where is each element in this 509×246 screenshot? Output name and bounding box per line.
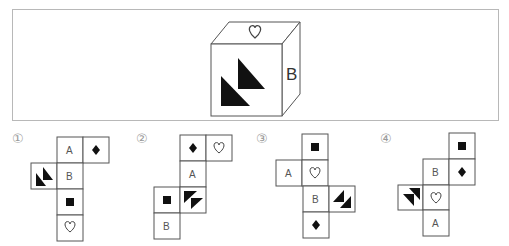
net4-label-a: A [432,218,439,229]
square-icon [311,143,319,151]
square-icon [66,198,74,206]
option-number-2: ② [136,131,148,146]
net3-label-a: A [285,168,292,179]
net1-label-b: B [66,171,73,182]
option-number-1: ① [12,131,24,146]
cube-label-b: B [286,65,297,84]
option-number-4: ④ [380,131,392,146]
net2-label-b: B [163,221,170,232]
net3-label-b: B [312,194,319,205]
puzzle-canvas: B A B A B A [0,0,509,246]
square-icon [163,196,171,204]
option-number-3: ③ [256,131,268,146]
square-icon [458,142,466,150]
net1-label-a: A [66,145,73,156]
net2-label-a: A [189,169,196,180]
net4-label-b: B [432,167,439,178]
